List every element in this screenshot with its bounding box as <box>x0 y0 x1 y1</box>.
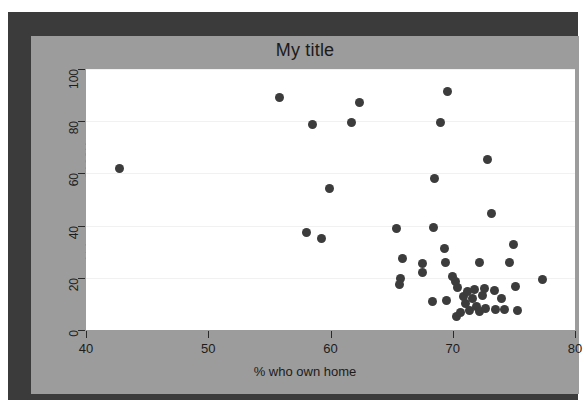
data-point <box>308 120 317 129</box>
x-axis-tick <box>86 331 87 338</box>
y-axis-tick-label: 80 <box>67 121 81 143</box>
data-point <box>483 155 492 164</box>
data-point <box>392 224 401 233</box>
y-axis-tick-label: 100 <box>67 69 81 91</box>
data-point <box>441 258 450 267</box>
chart-panel: My title % homes cost $100K+ % who own h… <box>31 36 579 394</box>
x-axis-title: % who own home <box>31 364 579 379</box>
x-axis-tick-label: 60 <box>311 341 351 356</box>
data-point <box>490 286 499 295</box>
chart-title: My title <box>31 38 579 62</box>
data-point <box>538 275 547 284</box>
gridline <box>86 226 575 227</box>
data-point <box>511 282 520 291</box>
data-point <box>513 306 522 315</box>
data-point <box>491 305 500 314</box>
y-axis-tick-label: 20 <box>67 278 81 300</box>
data-point <box>497 294 506 303</box>
data-point <box>443 87 452 96</box>
x-axis-tick-label: 40 <box>66 341 106 356</box>
data-point <box>418 268 427 277</box>
data-point <box>500 305 509 314</box>
data-point <box>398 254 407 263</box>
data-point <box>453 283 462 292</box>
data-point <box>456 308 465 317</box>
x-axis-tick-label: 50 <box>188 341 228 356</box>
data-point <box>325 184 334 193</box>
gridline <box>86 69 575 70</box>
data-point <box>395 280 404 289</box>
data-point <box>480 284 489 293</box>
data-point <box>440 244 449 253</box>
data-point <box>115 164 124 173</box>
data-point <box>317 234 326 243</box>
data-point <box>275 93 284 102</box>
data-point <box>509 240 518 249</box>
data-point <box>430 174 439 183</box>
data-point <box>505 258 514 267</box>
x-axis-tick-label: 80 <box>555 341 586 356</box>
x-axis-tick-label: 70 <box>433 341 473 356</box>
figure-outer-frame: My title % homes cost $100K+ % who own h… <box>8 12 578 400</box>
data-point <box>428 297 437 306</box>
y-axis-tick-label: 60 <box>67 173 81 195</box>
gridline <box>86 173 575 174</box>
data-point <box>487 209 496 218</box>
data-point <box>302 228 311 237</box>
data-point <box>355 98 364 107</box>
y-axis-tick-label: 40 <box>67 226 81 248</box>
data-point <box>475 258 484 267</box>
gridline <box>86 121 575 122</box>
data-point <box>429 223 438 232</box>
data-point <box>442 296 451 305</box>
data-point <box>436 118 445 127</box>
x-axis-tick <box>453 331 454 338</box>
x-axis-tick <box>208 331 209 338</box>
gridline <box>86 278 575 279</box>
data-point <box>418 259 427 268</box>
plot-area <box>86 69 575 330</box>
x-axis-tick <box>331 331 332 338</box>
x-axis-tick <box>575 331 576 338</box>
data-point <box>481 304 490 313</box>
figure-root: My title % homes cost $100K+ % who own h… <box>0 0 586 415</box>
data-point <box>347 118 356 127</box>
